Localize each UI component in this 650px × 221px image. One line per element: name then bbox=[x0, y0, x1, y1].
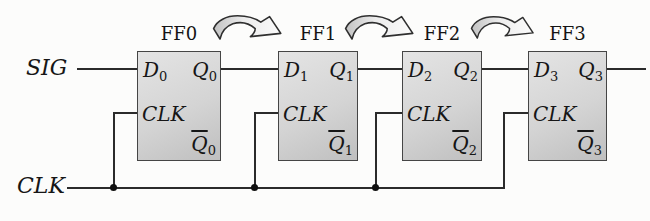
clk-junction-dot-ff0 bbox=[110, 184, 117, 191]
q0-to-d1-wire bbox=[221, 68, 278, 70]
clk-junction-dot-ff2 bbox=[372, 184, 379, 191]
ff1-box: D1 Q1 CLK Q1 bbox=[278, 51, 358, 161]
ff3-q-port-label: Q3 bbox=[578, 59, 603, 83]
q3-output-wire bbox=[607, 68, 646, 70]
shift-arrow-icon-2 bbox=[344, 14, 416, 40]
ff1-d-port-label: D1 bbox=[284, 59, 308, 83]
ff1-clk-stub bbox=[254, 112, 278, 114]
ff0-qbar-port-label: Q0 bbox=[191, 133, 216, 157]
ff0-clk-riser bbox=[113, 112, 115, 189]
ff2-d-port-label: D2 bbox=[408, 59, 432, 83]
ff0-d-port-label: D0 bbox=[143, 59, 167, 83]
ff1-q-port-label: Q1 bbox=[329, 59, 354, 83]
ff2-q-port-label: Q2 bbox=[453, 59, 478, 83]
ff2-box: D2 Q2 CLK Q2 bbox=[402, 51, 482, 161]
ff2-clk-port-label: CLK bbox=[407, 103, 451, 125]
ff0-box: D0 Q0 CLK Q0 bbox=[137, 51, 221, 161]
shift-arrow-icon-3 bbox=[470, 14, 536, 40]
ff1-clk-port-label: CLK bbox=[283, 103, 327, 125]
ff0-q-port-label: Q0 bbox=[192, 59, 217, 83]
ff0-clk-stub bbox=[113, 112, 137, 114]
q2-to-d3-wire bbox=[482, 68, 528, 70]
ff3-box: D3 Q3 CLK Q3 bbox=[528, 51, 607, 161]
clk-signal-label: CLK bbox=[17, 175, 65, 197]
ff2-clk-stub bbox=[375, 112, 402, 114]
sig-input-wire bbox=[77, 68, 137, 70]
ff3-d-port-label: D3 bbox=[534, 59, 558, 83]
ff1-qbar-port-label: Q1 bbox=[328, 133, 353, 157]
ff1-clk-riser bbox=[254, 112, 256, 189]
ff2-qbar-port-label: Q2 bbox=[452, 133, 477, 157]
ff0-clk-port-label: CLK bbox=[142, 103, 186, 125]
shift-register-diagram: SIG CLK FF0 FF1 FF2 FF3 D0 bbox=[0, 0, 650, 221]
sig-signal-label: SIG bbox=[26, 57, 67, 79]
ff3-clk-riser bbox=[503, 112, 505, 189]
ff3-qbar-port-label: Q3 bbox=[577, 133, 602, 157]
ff3-clk-port-label: CLK bbox=[533, 103, 577, 125]
ff2-clk-riser bbox=[375, 112, 377, 189]
clk-bus-wire bbox=[67, 187, 505, 189]
ff0-title: FF0 bbox=[137, 24, 221, 44]
clk-junction-dot-ff1 bbox=[251, 184, 258, 191]
ff3-title: FF3 bbox=[528, 24, 607, 44]
ff3-clk-stub bbox=[503, 112, 528, 114]
shift-arrow-icon-1 bbox=[212, 14, 284, 40]
q1-to-d2-wire bbox=[358, 68, 402, 70]
